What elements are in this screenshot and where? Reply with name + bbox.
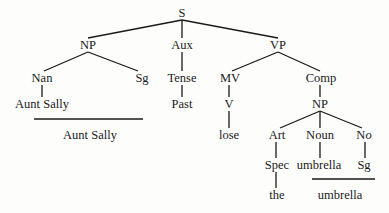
node-noun: Noun xyxy=(306,129,334,142)
edge-vp-comp xyxy=(278,52,320,71)
edge-np2-no xyxy=(320,111,362,128)
node-np2: NP xyxy=(312,98,328,111)
node-np: NP xyxy=(80,39,96,52)
node-umbrella: umbrella xyxy=(297,159,341,172)
node-no: No xyxy=(356,129,371,142)
node-comp: Comp xyxy=(306,72,337,85)
syntax-tree-diagram: S NP Aux VP Nan Sg Tense MV Comp Aunt Sa… xyxy=(0,0,389,213)
edge-s-np xyxy=(88,20,182,38)
node-spec: Spec xyxy=(265,159,289,172)
surface-aunt-sally: Aunt Sally xyxy=(63,129,117,142)
edge-np-nan xyxy=(44,52,88,71)
node-no-prefix: N xyxy=(356,128,365,142)
surface-umbrella: umbrella xyxy=(318,189,362,202)
node-no-suffix: o xyxy=(365,128,371,142)
edge-vp-mv xyxy=(232,52,278,71)
edge-s-vp xyxy=(182,20,278,38)
node-aux: Aux xyxy=(171,39,193,52)
node-v: V xyxy=(224,98,233,111)
node-the: the xyxy=(269,189,284,202)
node-mv: MV xyxy=(220,72,240,85)
node-s: S xyxy=(179,7,186,20)
node-past: Past xyxy=(172,98,193,111)
node-art: Art xyxy=(269,129,286,142)
node-nan: Nan xyxy=(32,72,53,85)
node-tense: Tense xyxy=(168,72,197,85)
node-lose: lose xyxy=(219,129,239,142)
edge-np2-art xyxy=(280,111,320,128)
edge-np-sg xyxy=(88,52,138,71)
node-sg2: Sg xyxy=(357,159,370,172)
node-aunt-sally: Aunt Sally xyxy=(15,98,69,111)
node-vp: VP xyxy=(270,39,286,52)
node-sg: Sg xyxy=(135,72,148,85)
